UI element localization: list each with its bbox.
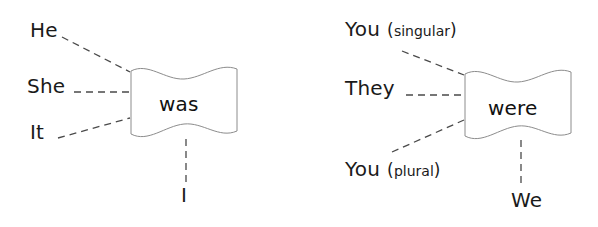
verb-label-was: was: [159, 92, 199, 116]
pronoun-text-you-singular: You: [345, 17, 380, 41]
pronoun-label-they: They: [345, 78, 395, 98]
qualifier-plural: plural: [394, 163, 434, 179]
pronoun-label-we: We: [511, 190, 542, 210]
pronoun-label-i: I: [181, 185, 187, 205]
pronoun-label-you-singular: You(singular): [345, 19, 457, 39]
connector-he-to-was: [62, 37, 130, 72]
connector-you-singular-to-were: [402, 51, 464, 75]
close-paren-singular: ): [450, 20, 457, 40]
open-paren-singular: (: [387, 20, 394, 40]
pronoun-label-she: She: [27, 76, 65, 96]
pronoun-label-it: It: [30, 122, 44, 142]
pronoun-label-you-plural: You(plural): [345, 159, 441, 179]
pronoun-label-he: He: [30, 20, 58, 40]
close-paren-plural: ): [434, 160, 441, 180]
open-paren-plural: (: [387, 160, 394, 180]
connector-you-plural-to-were: [392, 120, 464, 152]
pronoun-text-you-plural: You: [345, 157, 380, 181]
qualifier-singular: singular: [394, 23, 450, 39]
verb-label-were: were: [488, 96, 538, 120]
pronoun-verb-diagram: He She It I was You(singular) They You(p…: [0, 0, 598, 227]
connector-it-to-was: [58, 118, 130, 138]
